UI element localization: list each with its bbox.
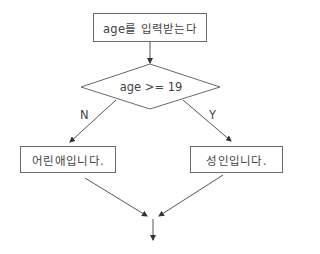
child-result-label: 어린애입니다.	[32, 152, 104, 168]
adult-result-label: 성인입니다.	[206, 152, 266, 168]
arrow-yes-branch	[183, 100, 231, 141]
no-branch-label: N	[80, 108, 89, 122]
arrow-child-to-merge	[85, 178, 147, 216]
yes-branch-label: Y	[209, 108, 216, 122]
decision-label: age >= 19	[120, 80, 183, 94]
child-result-box: 어린애입니다.	[20, 146, 116, 173]
input-age-box: age를 입력받는다	[93, 13, 207, 42]
arrow-no-branch	[70, 100, 116, 142]
arrow-adult-to-merge	[159, 175, 223, 216]
adult-result-box: 성인입니다.	[190, 146, 283, 173]
input-age-label: age를 입력받는다	[103, 20, 197, 36]
